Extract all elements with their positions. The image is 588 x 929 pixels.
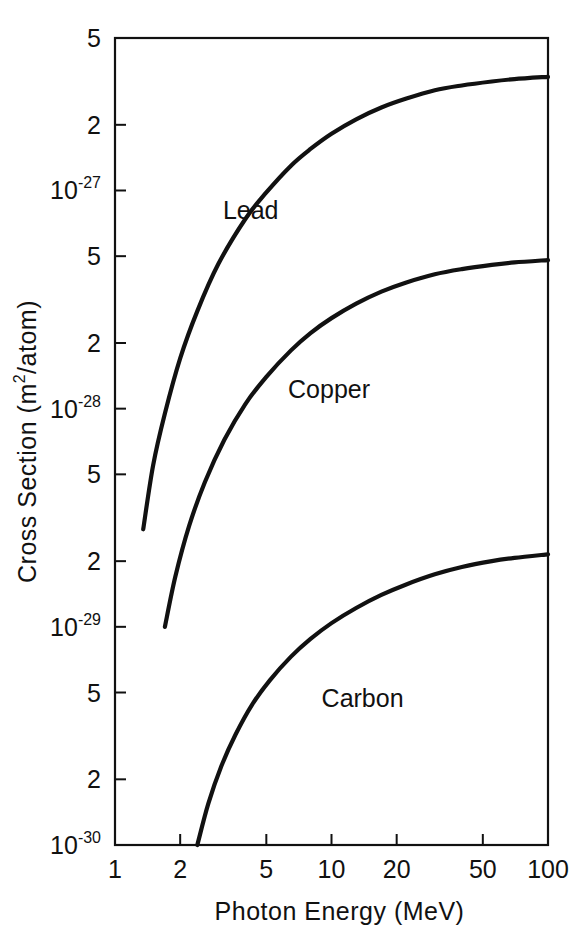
- y-tick-marks: [115, 125, 126, 780]
- y-tick-label-5: 10-28: [50, 393, 101, 423]
- x-tick-label-1: 2: [173, 855, 187, 883]
- data-curves: [143, 77, 548, 845]
- cross-section-plot: 5210-275210-285210-295210-30 12510205010…: [0, 0, 588, 929]
- x-tick-label-4: 20: [383, 855, 411, 883]
- y-tick-label-9: 5: [87, 679, 101, 707]
- y-tick-label-2: 10-27: [50, 174, 101, 204]
- y-tick-label-10: 2: [87, 765, 101, 793]
- x-tick-labels: 125102050100: [108, 855, 569, 883]
- x-tick-label-6: 100: [527, 855, 569, 883]
- y-tick-label-7: 2: [87, 547, 101, 575]
- axis-frame: [115, 38, 548, 845]
- curve-label-lead: Lead: [223, 196, 279, 224]
- x-tick-label-3: 10: [318, 855, 346, 883]
- figure-container: 5210-275210-285210-295210-30 12510205010…: [0, 0, 588, 929]
- x-tick-label-2: 5: [259, 855, 273, 883]
- curve-label-copper: Copper: [288, 375, 370, 403]
- x-tick-label-5: 50: [469, 855, 497, 883]
- curve-label-carbon: Carbon: [322, 684, 404, 712]
- curve-copper: [165, 260, 548, 627]
- y-tick-label-4: 2: [87, 329, 101, 357]
- y-tick-label-1: 2: [87, 111, 101, 139]
- y-axis-title: Cross Section (m2/atom): [11, 300, 41, 583]
- y-tick-label-3: 5: [87, 242, 101, 270]
- x-tick-marks: [180, 834, 483, 845]
- y-tick-label-11: 10-30: [50, 829, 101, 859]
- y-tick-labels: 5210-275210-285210-295210-30: [50, 24, 101, 859]
- curve-lead: [143, 77, 548, 529]
- y-tick-label-8: 10-29: [50, 611, 101, 641]
- x-tick-label-0: 1: [108, 855, 122, 883]
- y-tick-label-6: 5: [87, 460, 101, 488]
- x-axis-title: Photon Energy (MeV): [215, 897, 465, 925]
- y-tick-label-0: 5: [87, 24, 101, 52]
